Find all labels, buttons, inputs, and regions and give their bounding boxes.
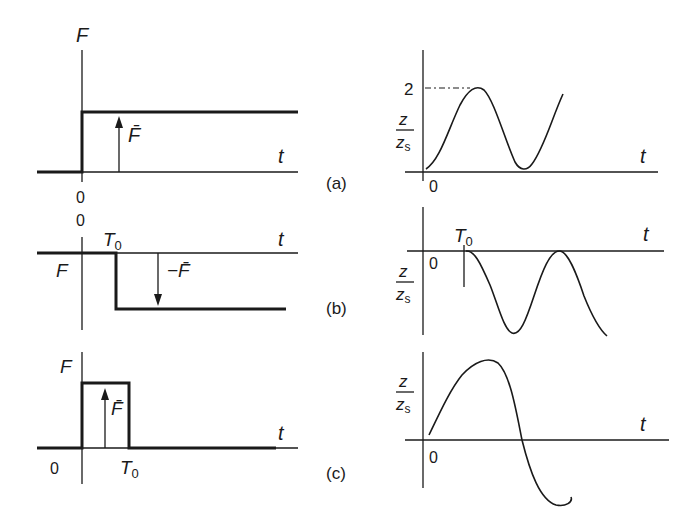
force-axis-label: F	[56, 260, 69, 281]
force-axis-label: F	[60, 356, 73, 377]
force-magnitude-label: F̄	[111, 398, 124, 419]
ratio-denominator: zs	[395, 133, 411, 154]
panel-c-force-plot: F F̄ t 0 T0	[37, 352, 298, 484]
panel-a-force-plot: F F̄ t 0	[37, 24, 298, 206]
step-force-line	[37, 112, 298, 172]
ratio-numerator: z	[398, 372, 408, 391]
response-curve	[466, 251, 607, 336]
arrow-down-icon	[154, 294, 162, 306]
origin-label: 0	[429, 255, 438, 272]
panel-c-response-plot: z zs t 0	[395, 352, 669, 505]
time-axis-label: t	[278, 228, 285, 250]
origin-label: 0	[76, 189, 85, 206]
arrow-up-icon	[115, 116, 123, 128]
panel-label-c: (c)	[326, 464, 346, 483]
panel-b-force-plot: 0 T0 t F −F̄	[37, 212, 298, 330]
time-axis-label: t	[643, 223, 650, 245]
pulse-force-line	[37, 383, 276, 448]
arrow-up-icon	[101, 388, 109, 400]
origin-label: 0	[429, 178, 438, 195]
panel-b-response-plot: T0 t 0 z zs	[395, 207, 664, 336]
pulse-response-figure: F F̄ t 0 (a) 2 z zs t 0 0 T0 t F −F̄ (b)…	[0, 0, 699, 528]
panel-label-b: (b)	[326, 299, 347, 318]
origin-label: 0	[429, 449, 438, 466]
time-marker-label: T0	[120, 457, 139, 481]
force-magnitude-label: −F̄	[167, 260, 191, 281]
force-axis-label: F	[76, 24, 90, 46]
time-marker-label: T0	[454, 225, 473, 249]
ratio-denominator: zs	[395, 285, 411, 306]
origin-label: 0	[50, 460, 59, 477]
ratio-denominator: zs	[395, 395, 411, 416]
step-force-line	[37, 253, 286, 309]
response-curve	[429, 360, 571, 505]
time-axis-label: t	[278, 422, 285, 444]
time-axis-label: t	[640, 145, 647, 167]
panel-label-a: (a)	[326, 174, 347, 193]
ratio-numerator: z	[398, 110, 408, 129]
time-marker-label: T0	[103, 229, 122, 253]
response-curve	[426, 88, 563, 169]
time-axis-label: t	[278, 145, 285, 167]
panel-a-response-plot: 2 z zs t 0	[395, 50, 658, 195]
time-axis-label: t	[640, 413, 647, 435]
peak-value-label: 2	[404, 80, 413, 99]
force-magnitude-label: F̄	[128, 124, 142, 146]
origin-label: 0	[76, 212, 85, 229]
ratio-numerator: z	[398, 262, 408, 281]
